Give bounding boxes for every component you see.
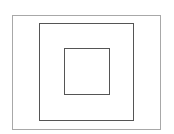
inner-rectangle xyxy=(64,48,110,95)
